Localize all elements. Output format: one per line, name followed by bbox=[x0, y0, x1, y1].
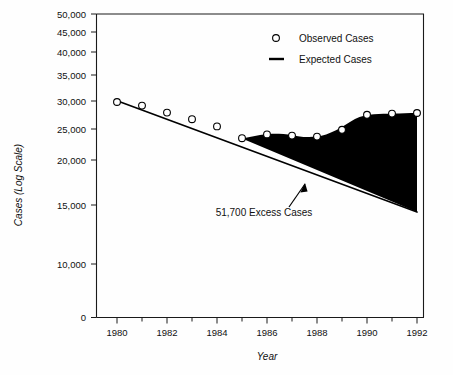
y-tick-label-35000: 35,000 bbox=[57, 70, 86, 81]
legend-label-expected: Expected Cases bbox=[299, 54, 372, 65]
y-tick-label-15000: 15,000 bbox=[57, 200, 86, 211]
data-point-1984 bbox=[214, 123, 221, 130]
x-tick-label-1980: 1980 bbox=[106, 327, 127, 338]
chart-figure: 50,000 45,000 40,000 35,000 30,000 25,00… bbox=[0, 0, 453, 375]
chart-legend: Observed Cases Expected Cases bbox=[269, 33, 373, 65]
data-point-1987 bbox=[289, 132, 296, 139]
data-point-1982 bbox=[164, 109, 171, 116]
y-tick-label-45000: 45,000 bbox=[57, 27, 86, 38]
excess-cases-shaded-region bbox=[242, 113, 417, 212]
y-tick-label-20000: 20,000 bbox=[57, 155, 86, 166]
excess-cases-chart: 50,000 45,000 40,000 35,000 30,000 25,00… bbox=[0, 0, 453, 375]
y-tick-label-25000: 25,000 bbox=[57, 124, 86, 135]
annotation-arrowhead-icon bbox=[300, 183, 307, 193]
data-point-1989 bbox=[339, 126, 346, 133]
x-tick-label-1982: 1982 bbox=[156, 327, 177, 338]
annotation-text: 51,700 Excess Cases bbox=[216, 207, 313, 218]
data-point-1985 bbox=[239, 135, 246, 142]
y-axis-tick-labels: 50,000 45,000 40,000 35,000 30,000 25,00… bbox=[57, 9, 86, 324]
x-tick-label-1992: 1992 bbox=[406, 327, 427, 338]
data-point-1981 bbox=[139, 102, 146, 109]
legend-marker-observed-icon bbox=[273, 35, 280, 42]
y-tick-label-40000: 40,000 bbox=[57, 47, 86, 58]
x-axis-tick-labels: 1980 1982 1984 1986 1988 1990 1992 bbox=[106, 327, 427, 338]
x-tick-label-1986: 1986 bbox=[256, 327, 277, 338]
data-point-1992 bbox=[414, 110, 421, 117]
x-axis-title: Year bbox=[257, 351, 278, 362]
data-point-1988 bbox=[314, 133, 321, 140]
y-tick-label-50000: 50,000 bbox=[57, 9, 86, 20]
x-tick-label-1984: 1984 bbox=[206, 327, 227, 338]
data-point-1983 bbox=[189, 116, 196, 123]
y-tick-label-10000: 10,000 bbox=[57, 259, 86, 270]
data-point-1986 bbox=[264, 131, 271, 138]
x-tick-label-1990: 1990 bbox=[356, 327, 377, 338]
y-axis-title: Cases (Log Scale) bbox=[13, 144, 24, 226]
excess-cases-annotation: 51,700 Excess Cases bbox=[216, 183, 313, 218]
data-point-1991 bbox=[389, 110, 396, 117]
y-tick-label-0: 0 bbox=[81, 312, 86, 323]
y-tick-label-30000: 30,000 bbox=[57, 96, 86, 107]
y-axis-ticks bbox=[91, 14, 97, 318]
x-tick-label-1988: 1988 bbox=[306, 327, 327, 338]
data-point-1990 bbox=[364, 111, 371, 118]
annotation-arrow-icon bbox=[289, 184, 305, 207]
data-point-1980 bbox=[114, 99, 121, 106]
legend-label-observed: Observed Cases bbox=[299, 33, 373, 44]
x-axis-ticks bbox=[117, 318, 417, 324]
